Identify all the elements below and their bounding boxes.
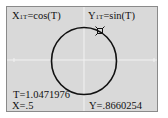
trace-x-value: X=.5: [12, 101, 33, 112]
trace-y-value: Y=.8660254: [89, 101, 142, 112]
graph-screen: X1T=cos(T) Y1T=sin(T) T=1.0471976 X=.5 Y…: [6, 6, 158, 112]
x-equation-label: X1T=cos(T): [12, 11, 61, 22]
y-equation-label: Y1T=sin(T): [88, 11, 135, 22]
trace-t-value: T=1.0471976: [13, 90, 70, 101]
